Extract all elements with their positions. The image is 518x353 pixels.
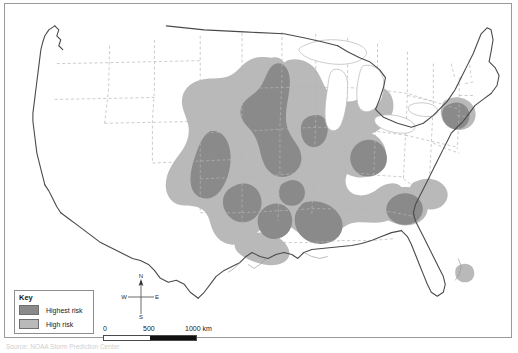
scale-segment-0-500 [104,336,150,340]
map-figure: Key Highest risk High risk N S E W 0 500… [0,0,518,353]
svg-text:N: N [139,273,143,279]
legend-item-label: Highest risk [46,307,83,314]
map-frame [4,3,512,338]
svg-text:W: W [121,294,127,300]
scale-bar: 0 500 1000 km [103,325,207,343]
scale-bar-graphic [103,335,197,341]
scale-tick-0: 0 [103,325,107,332]
legend: Key Highest risk High risk [14,290,94,334]
legend-item-label: High risk [46,321,73,328]
compass-rose-icon: N S E W [119,272,163,320]
svg-text:S: S [139,314,143,320]
figure-caption: Source: NOAA Storm Prediction Center [6,343,336,350]
high-risk-swatch [19,319,39,329]
highest-risk-swatch [19,305,39,315]
scale-segment-500-1000 [150,336,196,340]
legend-title: Key [19,293,90,302]
scale-tick-500: 500 [143,325,155,332]
svg-text:E: E [155,294,159,300]
legend-item-high-risk: High risk [19,317,90,331]
compass-rose: N S E W [119,272,163,320]
scale-tick-1000: 1000 km [185,325,212,332]
map-canvas [5,4,511,337]
scale-bar-labels: 0 500 1000 km [103,325,207,334]
legend-item-highest-risk: Highest risk [19,303,90,317]
